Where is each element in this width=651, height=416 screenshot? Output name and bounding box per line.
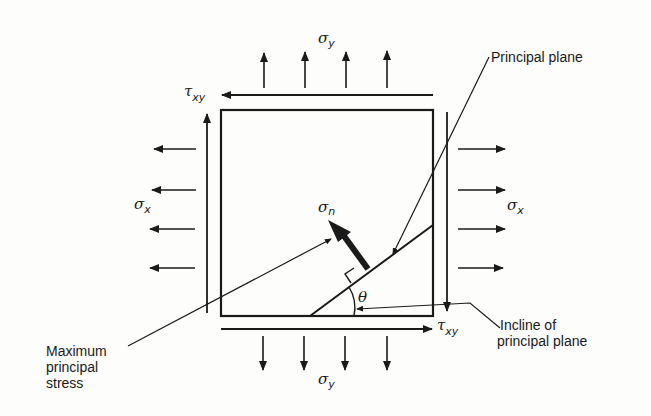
max-stress-label-line2: principal: [46, 359, 98, 375]
right-angle-mark: [345, 268, 354, 283]
sigma-y-bottom-arrows: [263, 336, 387, 370]
sigma-y-top-label: σy: [318, 29, 335, 50]
sigma-y-bottom-label: σy: [318, 370, 335, 391]
sigma-x-right-arrows: [458, 149, 505, 268]
sigma-x-left-label: σx: [134, 195, 151, 216]
tau-xy-top-label: τxy: [184, 82, 206, 104]
principal-plane-line: [310, 225, 433, 316]
max-stress-label-line1: Maximum: [46, 343, 107, 359]
sigma-n-label: σn: [318, 198, 335, 218]
max-stress-leader: [128, 239, 331, 346]
tau-xy-bottom-label: τxy: [437, 316, 459, 338]
principal-plane-label: Principal plane: [491, 49, 583, 65]
sigma-x-right-label: σx: [507, 196, 524, 217]
sigma-n-arrow: [328, 220, 368, 269]
sigma-y-top-arrows: [264, 51, 387, 88]
theta-arc: [349, 287, 355, 316]
theta-label: θ: [358, 288, 367, 306]
max-stress-label-line3: stress: [46, 375, 83, 391]
incline-label-line2: principal plane: [497, 333, 587, 349]
principal-plane-leader: [393, 57, 489, 254]
sigma-x-left-arrows: [150, 149, 196, 268]
incline-label-line1: Incline of: [500, 317, 556, 333]
stress-element-diagram: σy σy σx σx τxy τxy σn θ Principal plane…: [0, 0, 651, 416]
